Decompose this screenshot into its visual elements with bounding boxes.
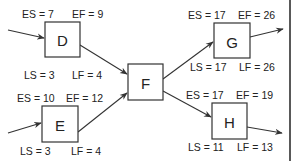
node-h: H ES = 17 EF = 19 LS = 11 LF = 13	[186, 89, 273, 153]
node-d-label: D	[57, 32, 68, 49]
node-h-es: ES = 17	[186, 89, 224, 101]
node-d-ef: EF = 9	[72, 8, 103, 20]
node-h-ef: EF = 19	[236, 89, 273, 101]
node-h-ls: LS = 11	[188, 141, 224, 153]
node-d-ls: LS = 3	[24, 69, 55, 81]
node-e-label: E	[55, 117, 65, 134]
edge-in-to-d	[8, 30, 44, 38]
node-h-label: H	[224, 114, 235, 131]
node-g-es: ES = 17	[188, 9, 226, 21]
node-f: F	[128, 64, 163, 100]
node-g-label: G	[226, 34, 238, 51]
node-e-lf: LF = 4	[71, 145, 101, 157]
node-d-es: ES = 7	[22, 8, 54, 20]
node-g-ef: EF = 26	[238, 9, 275, 21]
node-d: D ES = 7 EF = 9 LS = 3 LF = 4	[22, 8, 103, 81]
node-e-ef: EF = 12	[66, 92, 103, 104]
node-g-ls: LS = 17	[190, 61, 227, 73]
node-d-lf: LF = 4	[72, 69, 102, 81]
node-e: E ES = 10 EF = 12 LS = 3 LF = 4	[17, 92, 103, 157]
node-g: G ES = 17 EF = 26 LS = 17 LF = 26	[188, 9, 275, 73]
edge-in-to-e	[8, 123, 41, 133]
node-e-ls: LS = 3	[20, 145, 51, 157]
node-f-label: F	[141, 75, 150, 92]
edge-h-out	[247, 127, 282, 133]
node-e-es: ES = 10	[17, 92, 55, 104]
network-diagram: D ES = 7 EF = 9 LS = 3 LF = 4 E ES = 10 …	[0, 0, 296, 161]
edge-g-out	[250, 29, 283, 37]
node-h-lf: LF = 13	[237, 141, 273, 153]
node-g-lf: LF = 26	[239, 61, 275, 73]
